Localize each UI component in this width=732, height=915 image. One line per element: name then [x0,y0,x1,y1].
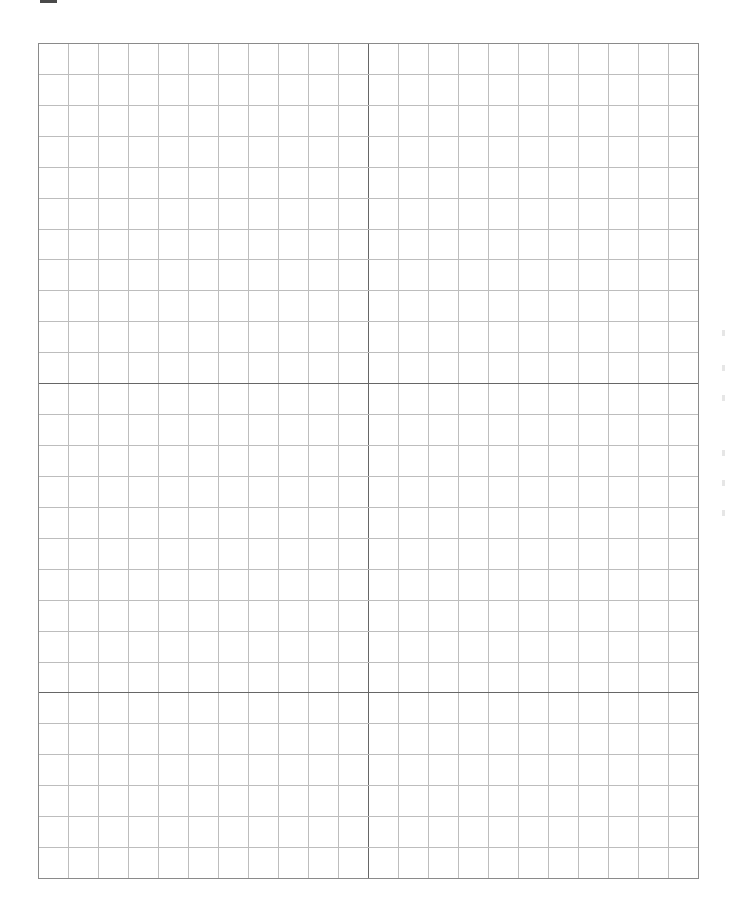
bleed-through-marks [722,320,732,520]
top-mark [40,0,57,3]
graph-paper-grid [38,43,698,878]
grid-lines [38,43,698,878]
